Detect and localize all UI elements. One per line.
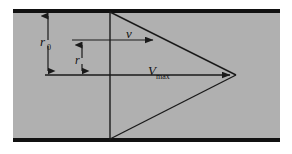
- pipe-wall-top: [13, 9, 280, 13]
- pipe-wall-bottom: [13, 138, 280, 142]
- velocity-profile-diagram: r 0 r v V max: [0, 0, 292, 154]
- label-pipe-radius-subscript: 0: [47, 43, 51, 52]
- label-max-velocity-subscript: max: [156, 72, 170, 81]
- label-local-velocity: v: [126, 26, 132, 41]
- figure-container: r 0 r v V max: [0, 0, 292, 154]
- label-local-radius: r: [75, 53, 80, 67]
